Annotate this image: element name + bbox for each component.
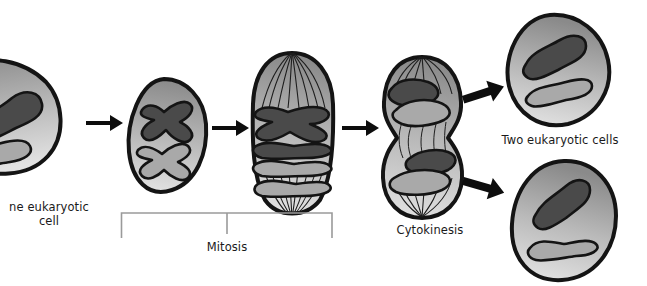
chromosome-light-2 — [255, 181, 331, 197]
chromosome-dark-2 — [253, 143, 331, 159]
chromosome-light-1 — [253, 161, 331, 177]
arrow-right-3 — [342, 118, 380, 138]
arrow-up-right-4 — [462, 78, 506, 108]
arrow-right-1 — [86, 113, 124, 133]
label-cytokinesis: Cytokinesis — [378, 223, 482, 237]
arrow-right-2 — [212, 118, 250, 138]
stage-mitosis-cell — [248, 50, 338, 220]
mitosis-bracket — [120, 210, 334, 238]
label-mitosis: Mitosis — [177, 240, 277, 254]
label-two-eukaryotic-cells: Two eukaryotic cells — [480, 133, 640, 147]
stage-daughter-bottom-cell — [506, 158, 622, 284]
stage-cytokinesis-cell — [376, 54, 468, 220]
stage-daughter-top-cell — [502, 12, 614, 128]
arrow-down-right-5 — [462, 172, 506, 202]
stage-prophase-cell — [124, 76, 212, 198]
label-one-eukaryotic-cell: ne eukaryotic cell — [0, 200, 104, 228]
cell-division-diagram: ne eukaryotic cell — [0, 0, 647, 286]
stage-interphase-cell — [0, 52, 72, 180]
